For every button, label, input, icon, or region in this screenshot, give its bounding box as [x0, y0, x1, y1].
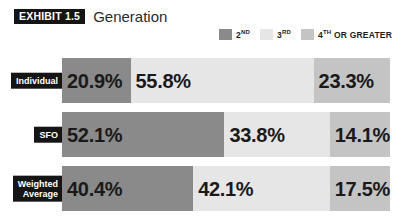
stacked-bar: 40.4%42.1%17.5%	[62, 166, 390, 211]
segment-value-label: 14.1%	[330, 125, 390, 145]
bar-segment-2[interactable]: 42.1%	[193, 166, 330, 211]
bar-segment-2[interactable]: 33.8%	[224, 112, 329, 157]
segment-value-label: 20.9%	[62, 71, 122, 91]
chart-rows: 20.9%55.8%23.3%Individual52.1%33.8%14.1%…	[0, 58, 404, 220]
segment-value-label: 55.8%	[131, 71, 191, 91]
exhibit-number-badge: EXHIBIT 1.5	[14, 9, 85, 24]
legend-item-1[interactable]: 2ND	[219, 29, 250, 40]
segment-value-label: 42.1%	[193, 179, 253, 199]
chart-header: EXHIBIT 1.5 Generation	[14, 9, 167, 24]
chart-row: 52.1%33.8%14.1%SFO	[0, 112, 404, 157]
bar-segment-3[interactable]: 17.5%	[330, 166, 390, 211]
exhibit-chart: EXHIBIT 1.5 Generation 2ND3RD4TH OR GREA…	[0, 0, 404, 221]
bar-segment-3[interactable]: 14.1%	[330, 112, 390, 157]
segment-value-label: 23.3%	[314, 71, 374, 91]
legend-item-3[interactable]: 4TH OR GREATER	[301, 29, 392, 40]
legend-label: 4TH OR GREATER	[318, 30, 392, 40]
bar-segment-1[interactable]: 40.4%	[62, 166, 193, 211]
segment-value-label: 52.1%	[62, 125, 122, 145]
segment-value-label: 40.4%	[62, 179, 122, 199]
legend-swatch-icon	[260, 29, 273, 40]
row-label-badge: SFO	[34, 126, 62, 143]
legend-swatch-icon	[301, 29, 314, 40]
page-title: Generation	[93, 9, 167, 24]
bar-segment-2[interactable]: 55.8%	[131, 58, 314, 103]
chart-row: 20.9%55.8%23.3%Individual	[0, 58, 404, 103]
legend-item-2[interactable]: 3RD	[260, 29, 291, 40]
legend-label: 3RD	[277, 30, 291, 40]
bar-segment-1[interactable]: 52.1%	[62, 112, 224, 157]
chart-legend: 2ND3RD4TH OR GREATER	[219, 29, 392, 40]
segment-value-label: 33.8%	[224, 125, 284, 145]
row-label-badge: Individual	[11, 72, 62, 89]
bar-segment-3[interactable]: 23.3%	[314, 58, 390, 103]
stacked-bar: 20.9%55.8%23.3%	[62, 58, 390, 103]
chart-row: 40.4%42.1%17.5%Weighted Average	[0, 166, 404, 211]
stacked-bar: 52.1%33.8%14.1%	[62, 112, 390, 157]
segment-value-label: 17.5%	[330, 179, 390, 199]
row-label-badge: Weighted Average	[13, 175, 62, 202]
legend-label: 2ND	[236, 30, 250, 40]
legend-swatch-icon	[219, 29, 232, 40]
bar-segment-1[interactable]: 20.9%	[62, 58, 131, 103]
